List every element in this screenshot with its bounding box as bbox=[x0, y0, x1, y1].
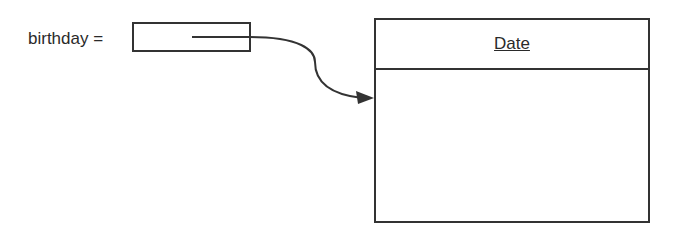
arrowhead-icon bbox=[356, 91, 374, 104]
reference-arrow bbox=[0, 0, 679, 228]
